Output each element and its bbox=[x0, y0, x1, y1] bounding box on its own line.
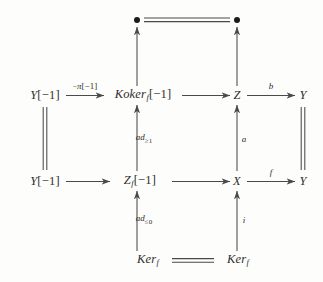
edge-label-ad-leq0: ad≤0 bbox=[136, 214, 152, 225]
node-zf-bracket: [−1] bbox=[134, 173, 156, 187]
node-ker-left-subscript: f bbox=[156, 257, 159, 267]
node-dot-top-right bbox=[234, 17, 240, 23]
edge-label-ad-leq0-sub: ≤0 bbox=[145, 218, 152, 226]
edge-label-b-text: b bbox=[269, 81, 274, 91]
edge-label-a-text: a bbox=[242, 134, 247, 144]
node-x-label: X bbox=[233, 174, 241, 188]
node-ker-f-left: Kerf bbox=[137, 253, 159, 267]
edge-label-ad-geq1-sub: ≥1 bbox=[145, 137, 152, 145]
node-y-shift-bottom: Y[−1] bbox=[30, 175, 60, 188]
edge-label-f: f bbox=[270, 168, 273, 177]
node-dot-top-left bbox=[134, 17, 140, 23]
node-koker-f-shift: Kokerf[−1] bbox=[115, 88, 172, 102]
node-y-top-right-label: Y bbox=[299, 88, 306, 102]
edge-label-a: a bbox=[242, 135, 247, 144]
edge-y-left-equality bbox=[43, 107, 47, 170]
node-ker-right-subscript: f bbox=[246, 257, 249, 267]
node-x: X bbox=[233, 175, 241, 188]
edge-label-ad-leq0-base: ad bbox=[136, 213, 145, 223]
edge-label-b: b bbox=[269, 82, 274, 91]
edge-y-right-equality bbox=[301, 107, 305, 170]
node-z-f-shift: Zf[−1] bbox=[124, 174, 156, 188]
edge-label-i-text: i bbox=[243, 215, 246, 225]
node-ker-left-base: Ker bbox=[137, 252, 156, 266]
edge-ker-equality bbox=[172, 259, 214, 263]
node-z: Z bbox=[233, 89, 240, 102]
edge-label-ad-geq1: ad≥1 bbox=[136, 133, 152, 144]
node-y-shift-bottom-bracket: [−1] bbox=[37, 174, 59, 188]
node-ker-f-right: Kerf bbox=[227, 253, 249, 267]
edge-label-i: i bbox=[243, 216, 246, 225]
edge-label-ad-geq1-base: ad bbox=[136, 132, 145, 142]
diagram-edges-layer bbox=[0, 0, 323, 282]
node-y-bottom-right-label: Y bbox=[299, 174, 306, 188]
node-ker-right-base: Ker bbox=[227, 252, 246, 266]
edge-label-pi-bracket: [−1] bbox=[82, 81, 98, 91]
node-koker-bracket: [−1] bbox=[149, 87, 171, 101]
node-koker-base: Koker bbox=[115, 87, 147, 101]
edge-label-f-text: f bbox=[270, 167, 273, 177]
node-y-bottom-right: Y bbox=[299, 175, 306, 188]
node-y-shift-top-bracket: [−1] bbox=[37, 88, 59, 102]
commutative-diagram: Y[−1] Kokerf[−1] Z Y Y[−1] Zf[−1] X Y Ke… bbox=[0, 0, 323, 282]
edge-dot-equality bbox=[144, 18, 230, 22]
node-y-shift-top: Y[−1] bbox=[30, 89, 60, 102]
node-y-top-right: Y bbox=[299, 89, 306, 102]
node-z-label: Z bbox=[233, 88, 240, 102]
edge-label-minus-pi-shift: −π[−1] bbox=[73, 82, 97, 91]
